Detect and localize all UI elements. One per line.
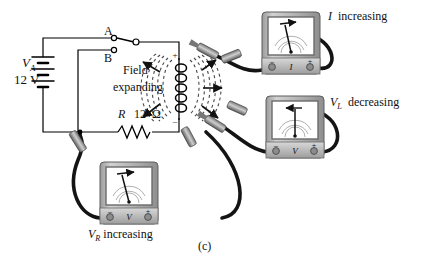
annotation-current: I increasing [328, 10, 387, 22]
terminal-plus-label: + [312, 141, 317, 150]
meter-voltmeter-inductor[interactable]: – + V [266, 96, 324, 158]
source-symbol-label: VA [22, 56, 35, 72]
circuit-figure: + – [0, 0, 422, 264]
terminal-plus-label: + [308, 57, 313, 66]
source-value-label: 12 V [14, 73, 39, 86]
meter-ammeter[interactable]: – + I [262, 12, 320, 74]
annotation-inductor-voltage: VL decreasing [330, 96, 399, 112]
switch-pivot[interactable] [133, 39, 139, 45]
switch-contact-b[interactable] [111, 47, 116, 52]
annotation-resistor-voltage: VR increasing [88, 228, 153, 244]
coil-polarity-plus: + [172, 50, 177, 60]
junction-dot [78, 130, 83, 135]
meter-voltmeter-resistor[interactable]: – + V [100, 162, 158, 224]
coil-polarity-minus: – [172, 116, 178, 126]
resistor-designator: R [118, 108, 125, 120]
switch-contact-a-label: A [104, 25, 113, 37]
figure-caption: (c) [198, 240, 211, 252]
resistor-unit: Ω [152, 108, 161, 120]
terminal-plus-label: + [146, 207, 151, 216]
field-label-line1: Field [123, 64, 148, 76]
resistor-value: 12 [134, 108, 146, 120]
field-label-line2: expanding [113, 81, 163, 93]
switch-contact-b-label: B [104, 52, 112, 64]
